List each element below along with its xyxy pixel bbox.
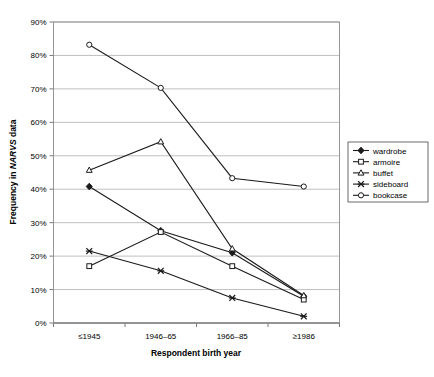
x-axis-tick-labels: ≤19451946–651966–85≥1986 [78, 332, 315, 341]
y-axis-title: Frequency in NARVS data [8, 119, 18, 224]
legend-item-wardrobe[interactable]: wardrobe [353, 147, 407, 156]
x-tick-label: ≤1945 [78, 332, 101, 341]
chart-legend: wardrobearmoirebuffetsideboardbookcase [348, 142, 428, 202]
series-armoire [87, 230, 306, 302]
data-point-sideboard [300, 313, 307, 319]
data-point-bookcase [301, 184, 306, 189]
y-tick-label: 90% [30, 18, 46, 27]
y-tick-label: 10% [30, 286, 46, 295]
data-point-bookcase [87, 42, 92, 47]
y-tick-label: 60% [30, 118, 46, 127]
y-tick-label: 20% [30, 252, 46, 261]
legend-marker-armoire [359, 159, 364, 164]
data-point-armoire [158, 230, 163, 235]
data-point-armoire [230, 264, 235, 269]
y-tick-label: 0% [35, 319, 47, 328]
axis-ticks [50, 22, 340, 327]
y-tick-label: 40% [30, 185, 46, 194]
data-point-sideboard [229, 295, 236, 301]
legend-label-wardrobe: wardrobe [372, 147, 407, 156]
data-point-buffet [158, 139, 164, 144]
data-point-armoire [87, 264, 92, 269]
series-bookcase [87, 42, 307, 189]
data-point-bookcase [158, 85, 163, 90]
legend-label-bookcase: bookcase [373, 191, 408, 200]
data-point-sideboard [86, 248, 93, 254]
series-line-buffet [89, 142, 304, 296]
y-tick-label: 30% [30, 219, 46, 228]
plot-area-border [54, 22, 340, 323]
y-tick-label: 50% [30, 152, 46, 161]
y-tick-label: 70% [30, 85, 46, 94]
x-tick-label: 1946–65 [145, 332, 177, 341]
legend-label-buffet: buffet [373, 169, 394, 178]
series-buffet [86, 139, 306, 298]
gridlines [54, 22, 340, 323]
series-line-sideboard [89, 251, 304, 316]
legend-marker-bookcase [358, 193, 363, 198]
x-tick-label: 1966–85 [217, 332, 249, 341]
series-wardrobe [86, 183, 307, 299]
data-point-sideboard [157, 268, 164, 274]
series-sideboard [86, 248, 307, 319]
data-point-bookcase [230, 176, 235, 181]
legend-label-armoire: armoire [373, 158, 401, 167]
x-tick-label: ≥1986 [293, 332, 316, 341]
series-line-bookcase [89, 45, 304, 187]
series-line-wardrobe [89, 187, 304, 297]
legend-label-sideboard: sideboard [373, 180, 408, 189]
x-axis-title: Respondent birth year [151, 348, 242, 358]
data-series-group [86, 42, 307, 319]
y-axis-tick-labels: 0%10%20%30%40%50%60%70%80%90% [30, 18, 46, 328]
line-chart: 0%10%20%30%40%50%60%70%80%90% ≤19451946–… [0, 0, 434, 377]
chart-container: 0%10%20%30%40%50%60%70%80%90% ≤19451946–… [0, 0, 434, 377]
y-tick-label: 80% [30, 51, 46, 60]
